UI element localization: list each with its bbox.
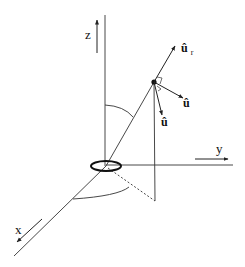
z-axis-label: z <box>85 27 91 42</box>
spherical-coordinates-diagram: z y x ûr û û <box>0 0 245 267</box>
radial-line <box>106 82 154 166</box>
unit-vector-phi-label: û <box>183 96 190 110</box>
projection-dashed-line <box>108 168 155 201</box>
y-axis-label: y <box>216 141 223 156</box>
unit-vector-r-arrow <box>154 46 175 82</box>
theta-arc <box>105 105 133 117</box>
x-axis-line <box>14 166 106 256</box>
unit-vector-phi-arrow <box>154 82 183 98</box>
x-axis-label: x <box>15 222 22 237</box>
vertical-drop-line <box>154 82 155 201</box>
unit-vector-r-label: ûr <box>181 41 194 57</box>
phi-arc <box>73 187 129 199</box>
unit-vector-theta-label: û <box>161 115 168 129</box>
right-angle-marker <box>157 77 162 84</box>
right-angle-marker-2 <box>157 86 161 91</box>
